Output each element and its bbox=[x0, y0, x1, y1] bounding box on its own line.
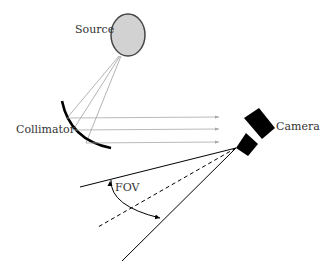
camera-body bbox=[244, 108, 275, 139]
field-of-view: FOV bbox=[80, 148, 236, 261]
collimator: Collimator bbox=[16, 101, 111, 148]
camera-lens bbox=[236, 133, 258, 156]
camera-label: Camera bbox=[276, 120, 320, 133]
camera: Camera bbox=[236, 108, 320, 156]
source-label: Source bbox=[75, 23, 114, 36]
collimator-label: Collimator bbox=[16, 123, 76, 136]
collimated-beams bbox=[67, 117, 219, 143]
fov-upper-line bbox=[80, 148, 236, 187]
diagram-canvas: Source Collimator Camera FOV bbox=[0, 0, 320, 276]
source: Source bbox=[75, 14, 145, 56]
source-ellipse bbox=[111, 14, 145, 56]
fov-label: FOV bbox=[115, 181, 140, 194]
fov-lower-line bbox=[122, 148, 236, 261]
